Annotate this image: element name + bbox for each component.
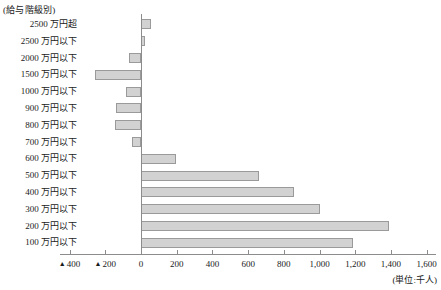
x-axis-tick <box>355 250 356 255</box>
bar-row: 700 万円以下 <box>0 134 441 151</box>
bar-row: 800 万円以下 <box>0 117 441 134</box>
x-axis-tick <box>427 250 428 255</box>
bar <box>126 87 141 97</box>
category-label: 400 万円以下 <box>0 184 77 201</box>
bar-row: 2500 万円以下 <box>0 33 441 50</box>
bar-row: 1000 万円以下 <box>0 83 441 100</box>
x-axis-tick-label: ▲200 <box>95 259 116 269</box>
x-axis-tick-label: 800 <box>277 259 291 269</box>
bar <box>141 187 294 197</box>
bar-row: 600 万円以下 <box>0 150 441 167</box>
x-axis-tick-label: 600 <box>241 259 255 269</box>
x-axis-tick-label: ▲400 <box>59 259 80 269</box>
x-axis-tick-label: 200 <box>170 259 184 269</box>
x-axis-tick-label: 1,600 <box>417 259 437 269</box>
bar-row: 2000 万円以下 <box>0 50 441 67</box>
x-axis-unit-label: (単位:千人) <box>393 273 438 286</box>
category-label: 2500 万円超 <box>0 16 77 33</box>
negative-triangle-icon: ▲ <box>59 260 66 268</box>
x-axis-tick <box>70 250 71 255</box>
category-label: 700 万円以下 <box>0 134 77 151</box>
bar <box>95 70 141 80</box>
x-axis-tick-label: 400 <box>206 259 220 269</box>
category-label: 900 万円以下 <box>0 100 77 117</box>
zero-axis-line <box>141 14 142 254</box>
x-axis-tick <box>141 250 142 255</box>
bar-row: 100 万円以下 <box>0 234 441 251</box>
bar-row: 200 万円以下 <box>0 218 441 235</box>
x-axis-tick <box>105 250 106 255</box>
category-label: 300 万円以下 <box>0 201 77 218</box>
category-label: 2500 万円以下 <box>0 33 77 50</box>
x-axis-tick-label: 0 <box>139 259 144 269</box>
bar <box>129 53 141 63</box>
bar <box>141 238 353 248</box>
x-axis-tick <box>320 250 321 255</box>
bar <box>132 137 141 147</box>
x-axis-tick <box>212 250 213 255</box>
category-label: 200 万円以下 <box>0 218 77 235</box>
bar-row: 400 万円以下 <box>0 184 441 201</box>
chart-root: (給与階級別) 2500 万円超2500 万円以下2000 万円以下1500 万… <box>0 0 441 290</box>
bar <box>141 171 259 181</box>
x-axis-tick-label: 1,000 <box>309 259 329 269</box>
bar-row: 1500 万円以下 <box>0 66 441 83</box>
category-label: 600 万円以下 <box>0 150 77 167</box>
bar <box>141 204 320 214</box>
bar <box>116 103 141 113</box>
x-axis-tick <box>284 250 285 255</box>
x-axis-tick-label: 1,400 <box>381 259 401 269</box>
bar-row: 300 万円以下 <box>0 201 441 218</box>
x-axis-tick-label: 1,200 <box>345 259 365 269</box>
category-label: 2000 万円以下 <box>0 50 77 67</box>
x-axis-tick <box>177 250 178 255</box>
bar-row: 900 万円以下 <box>0 100 441 117</box>
category-label: 1500 万円以下 <box>0 66 77 83</box>
plot-area: 2500 万円超2500 万円以下2000 万円以下1500 万円以下1000 … <box>0 14 441 254</box>
category-label: 1000 万円以下 <box>0 83 77 100</box>
bar-row: 2500 万円超 <box>0 16 441 33</box>
bar <box>141 154 176 164</box>
x-axis-tick <box>391 250 392 255</box>
bar-row: 500 万円以下 <box>0 167 441 184</box>
category-label: 500 万円以下 <box>0 167 77 184</box>
bar <box>115 120 141 130</box>
negative-triangle-icon: ▲ <box>95 260 102 268</box>
x-axis-tick <box>248 250 249 255</box>
category-label: 100 万円以下 <box>0 234 77 251</box>
bar <box>141 221 389 231</box>
category-label: 800 万円以下 <box>0 117 77 134</box>
bar <box>141 19 151 29</box>
